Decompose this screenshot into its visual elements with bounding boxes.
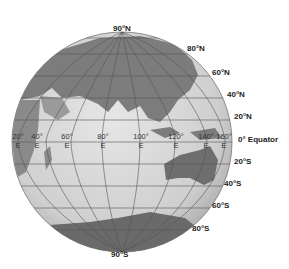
latitude-label: 80°N bbox=[187, 44, 205, 53]
longitude-hemisphere: E bbox=[132, 141, 150, 150]
longitude-hemisphere: E bbox=[197, 141, 215, 150]
longitude-degree: 60° bbox=[58, 132, 76, 141]
longitude-degree: 140° bbox=[197, 132, 215, 141]
longitude-label: 60°E bbox=[58, 132, 76, 150]
longitude-label: 140°E bbox=[197, 132, 215, 150]
longitude-label: 100°E bbox=[132, 132, 150, 150]
latitude-label: 60°N bbox=[212, 68, 230, 77]
longitude-hemisphere: E bbox=[58, 141, 76, 150]
latitude-label: 60°S bbox=[212, 201, 229, 210]
longitude-hemisphere: E bbox=[167, 141, 185, 150]
longitude-hemisphere: E bbox=[94, 141, 112, 150]
longitude-hemisphere: E bbox=[9, 141, 27, 150]
longitude-hemisphere: E bbox=[28, 141, 46, 150]
longitude-label: 160°E bbox=[215, 132, 233, 150]
latitude-label: 40°S bbox=[224, 179, 241, 188]
longitude-label: 120°E bbox=[167, 132, 185, 150]
latitude-label: 90°S bbox=[111, 250, 128, 259]
longitude-degree: 100° bbox=[132, 132, 150, 141]
latitude-label: 40°N bbox=[227, 90, 245, 99]
longitude-degree: 120° bbox=[167, 132, 185, 141]
longitude-degree: 160° bbox=[215, 132, 233, 141]
longitude-label: 20°E bbox=[9, 132, 27, 150]
latitude-label: 20°S bbox=[234, 157, 251, 166]
longitude-degree: 40° bbox=[28, 132, 46, 141]
latitude-label: 0° Equator bbox=[238, 135, 278, 144]
longitude-degree: 20° bbox=[9, 132, 27, 141]
longitude-degree: 80° bbox=[94, 132, 112, 141]
latitude-label: 80°S bbox=[192, 224, 209, 233]
latitude-label: 90°N bbox=[113, 24, 131, 33]
globe-map: 90°N80°N60°N40°N20°N0° Equator20°S40°S60… bbox=[0, 0, 289, 269]
longitude-label: 80°E bbox=[94, 132, 112, 150]
latitude-label: 20°N bbox=[234, 112, 252, 121]
longitude-hemisphere: E bbox=[215, 141, 233, 150]
longitude-label: 40°E bbox=[28, 132, 46, 150]
